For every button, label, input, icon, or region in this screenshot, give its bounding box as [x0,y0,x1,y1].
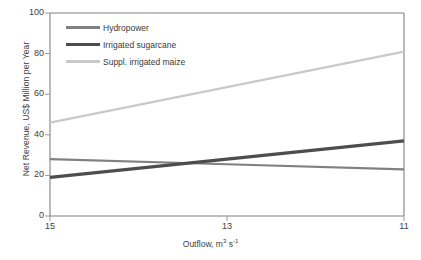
chart-figure: Net Revenue, US$ Million per Year 0 20 4… [0,0,421,260]
plot-area [0,0,421,260]
legend-item-irrigated-sugarcane: Irrigated sugarcane [66,36,185,53]
legend-swatch-irrigated-sugarcane [66,43,100,46]
legend-label: Suppl. irrigated maize [103,57,185,67]
series-line-irrigated-sugarcane [50,141,404,178]
y-axis-ticks [45,13,50,216]
chart-legend: Hydropower Irrigated sugarcane Suppl. ir… [66,19,185,70]
legend-item-suppl-irrigated-maize: Suppl. irrigated maize [66,53,185,70]
legend-item-hydropower: Hydropower [66,19,185,36]
legend-swatch-suppl-irrigated-maize [66,60,100,62]
legend-label: Hydropower [103,23,149,33]
series-lines [50,52,404,178]
legend-label: Irrigated sugarcane [103,40,176,50]
x-axis-ticks [50,216,404,221]
legend-swatch-hydropower [66,26,100,28]
